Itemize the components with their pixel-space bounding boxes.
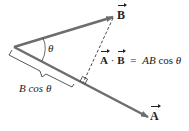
vector-a-symbol: A (150, 109, 159, 124)
vector-b-symbol: B (117, 8, 125, 23)
formula-theta: θ (176, 54, 181, 66)
formula-dot: · (111, 54, 115, 66)
formula-vector-a: A (100, 54, 108, 66)
vector-a-label: A (150, 109, 159, 124)
angle-arc (42, 38, 45, 61)
projection-label: B cos θ (19, 82, 51, 94)
vector-b-arrow (14, 17, 113, 47)
dot-product-diagram: B A θ B cos θ A · B = AB cos θ (0, 0, 189, 131)
formula-vector-b: B (117, 54, 124, 66)
dot-product-formula: A · B = AB cos θ (100, 54, 181, 66)
formula-ab: AB (142, 54, 155, 66)
formula-cos: cos (158, 54, 173, 66)
projection-text: B cos θ (19, 82, 51, 94)
angle-theta-label: θ (48, 42, 53, 54)
vector-b-label: B (117, 8, 125, 23)
formula-equals: = (130, 54, 136, 66)
